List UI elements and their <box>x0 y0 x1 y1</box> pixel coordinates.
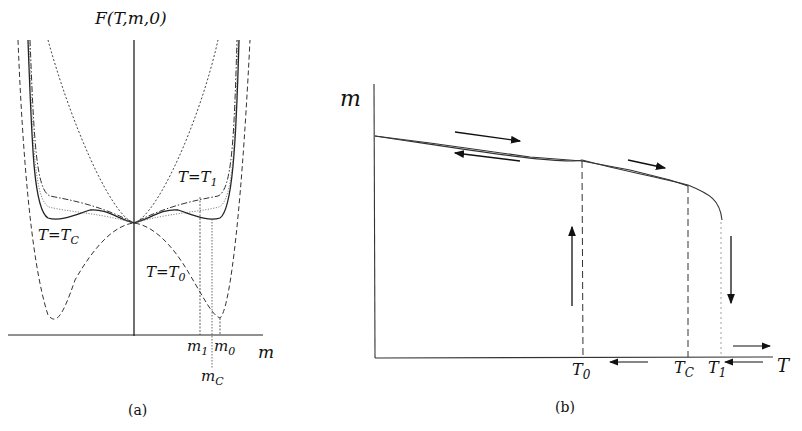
panel-a: F(T,m,0) m T=T1 T=TC T=T0 m1 m0 mC (a) <box>8 8 274 418</box>
panel-b: m T T0 TC T1 (b) <box>340 84 791 415</box>
label-t-eq-tc: T=TC <box>38 226 80 247</box>
tick-mc: mC <box>201 367 224 388</box>
tick-tc: TC <box>674 358 694 380</box>
caption-a: (a) <box>128 402 147 418</box>
tick-t0: T0 <box>572 360 591 382</box>
label-t-eq-t1: T=T1 <box>178 168 218 189</box>
x-axis-label: m <box>258 342 274 362</box>
y-axis <box>374 84 375 358</box>
arrow-right-mid <box>628 160 665 168</box>
figure-canvas: F(T,m,0) m T=T1 T=TC T=T0 m1 m0 mC (a) m… <box>0 0 802 431</box>
guide-t0 <box>582 161 583 357</box>
y-axis-label: m <box>340 86 361 111</box>
tick-m0: m0 <box>214 337 235 358</box>
magnetization-curve <box>375 136 722 220</box>
y-axis-label: F(T,m,0) <box>94 8 167 28</box>
label-t-eq-t0: T=T0 <box>146 263 186 284</box>
caption-b: (b) <box>555 399 575 415</box>
x-axis-label: T <box>777 355 791 376</box>
tick-m1: m1 <box>187 337 208 358</box>
tick-t1: T1 <box>708 358 726 380</box>
arrow-right-upper <box>455 132 520 141</box>
curve-high-t <box>48 40 218 223</box>
